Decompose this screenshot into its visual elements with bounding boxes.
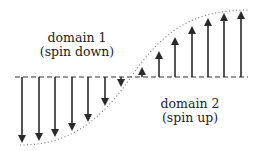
spin-down-arrow bbox=[84, 77, 92, 122]
domain-2-title: domain 2 bbox=[145, 97, 235, 111]
domain-2-subtitle: (spin up) bbox=[145, 111, 235, 125]
spin-down-arrow bbox=[51, 77, 59, 137]
domain-1-label: domain 1 (spin down) bbox=[32, 31, 122, 59]
domain-wall-diagram bbox=[0, 0, 261, 151]
spin-down-arrow bbox=[101, 77, 109, 106]
spin-up-arrow bbox=[188, 26, 196, 77]
spin-up-arrow bbox=[155, 51, 163, 77]
spin-down-arrow bbox=[117, 77, 125, 87]
spin-up-arrow bbox=[171, 37, 179, 77]
spin-up-arrow bbox=[204, 18, 212, 77]
spin-down-arrow bbox=[18, 77, 26, 143]
spin-down-arrow bbox=[35, 77, 43, 141]
spin-down-arrow bbox=[68, 77, 76, 131]
spin-up-arrow bbox=[138, 67, 146, 77]
spin-up-arrow bbox=[237, 11, 245, 77]
domain-1-subtitle: (spin down) bbox=[32, 45, 122, 59]
spin-up-arrow bbox=[220, 13, 228, 77]
domain-1-title: domain 1 bbox=[32, 31, 122, 45]
domain-2-label: domain 2 (spin up) bbox=[145, 97, 235, 125]
